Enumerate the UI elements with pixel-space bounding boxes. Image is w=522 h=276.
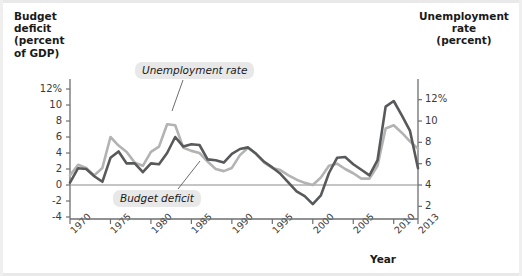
leader-line-unemployment — [172, 80, 183, 111]
plot-area — [0, 0, 522, 276]
x-axis-title: Year — [370, 253, 396, 265]
chart-figure: Budget deficit (percent of GDP) Unemploy… — [0, 0, 522, 276]
annotation-unemployment-rate: Unemployment rate — [135, 62, 254, 79]
annotation-budget-deficit: Budget deficit — [113, 190, 201, 207]
